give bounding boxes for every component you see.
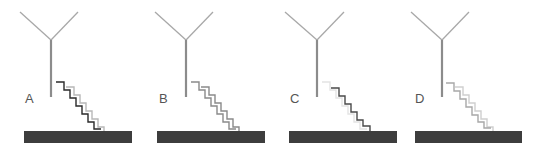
front-staircase [56,82,101,129]
back-staircase [201,87,246,134]
ground-bar [415,131,522,143]
ground-bar [157,131,265,143]
panel-label: A [25,92,34,105]
panel-a: A [0,0,135,151]
antenna-stair-drawing [0,0,135,151]
antenna-stair-drawing [405,0,541,151]
antenna-stair-drawing [270,0,405,151]
panel-d: D [405,0,541,151]
y-antenna-icon [411,12,469,97]
figure: A B C [0,0,541,151]
antenna-stair-drawing [135,0,270,151]
back-staircase [322,82,367,129]
y-antenna-icon [155,12,213,97]
panel-label: D [415,92,424,105]
back-staircase [66,87,111,134]
panel-b: B [135,0,270,151]
back-staircase [455,87,500,134]
front-staircase [191,82,236,129]
panel-label: C [290,92,299,105]
front-staircase [446,83,491,128]
front-staircase [331,88,377,133]
ground-bar [289,131,397,143]
panel-label: B [159,92,168,105]
panel-c: C [270,0,405,151]
ground-bar [24,131,132,143]
y-antenna-icon [285,12,344,97]
y-antenna-icon [20,12,78,97]
